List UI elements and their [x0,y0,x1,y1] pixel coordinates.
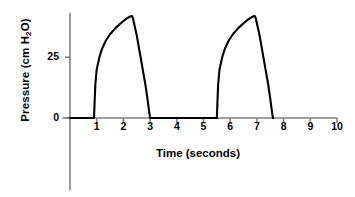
y-axis-label-text-post: O) [19,18,31,31]
y-axis-label: Pressure (cm H2O) [19,0,33,140]
x-tick-label: 4 [167,120,187,132]
x-tick-label: 3 [140,120,160,132]
x-tick-label: 8 [274,120,294,132]
x-tick-label: 9 [300,120,320,132]
x-tick-label: 7 [247,120,267,132]
y-tick-label: 0 [37,111,59,123]
x-tick-label: 10 [327,120,347,132]
y-tick-label: 25 [37,50,59,62]
x-tick-label: 2 [113,120,133,132]
x-tick-label: 6 [220,120,240,132]
axes-group [62,13,337,190]
y-axis-label-text-pre: Pressure (cm H [19,36,31,122]
pressure-time-chart: Pressure (cm H2O) Time (seconds) 1234567… [0,0,355,197]
x-tick-label: 1 [87,120,107,132]
x-axis-label: Time (seconds) [118,147,278,159]
x-tick-label: 5 [194,120,214,132]
data-series-group [70,16,273,118]
chart-canvas [0,0,355,197]
pressure-waveform-line [70,16,273,118]
y-axis-label-subscript: 2 [24,31,33,36]
